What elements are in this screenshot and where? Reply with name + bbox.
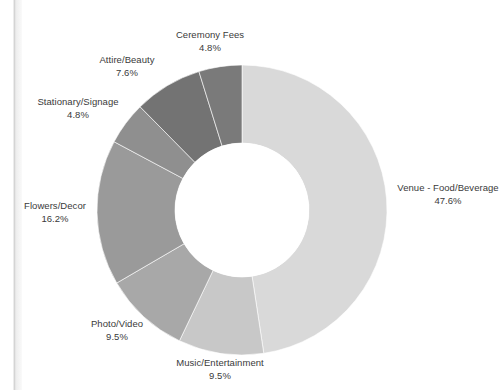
chart-page: Venue - Food/Beverage47.6%Music/Entertai… (0, 0, 504, 390)
slice-label-name: Flowers/Decor (24, 200, 86, 213)
slice-label-percent: 7.6% (99, 67, 154, 80)
slice-label: Photo/Video9.5% (91, 318, 143, 343)
slice-label-name: Venue - Food/Beverage (397, 182, 498, 195)
slice-label: Flowers/Decor16.2% (24, 200, 86, 225)
donut-hole (175, 143, 309, 277)
slice-label-name: Stationary/Signage (37, 96, 118, 109)
slice-label-percent: 16.2% (24, 213, 86, 226)
slice-label-name: Ceremony Fees (176, 29, 244, 42)
slice-label-percent: 9.5% (176, 370, 264, 383)
slice-label-percent: 47.6% (397, 195, 498, 208)
slice-label-name: Attire/Beauty (99, 54, 154, 67)
slice-label-percent: 9.5% (91, 331, 143, 344)
donut-chart: Venue - Food/Beverage47.6%Music/Entertai… (0, 0, 504, 390)
slice-label: Venue - Food/Beverage47.6% (397, 182, 498, 207)
slice-label-percent: 4.8% (37, 109, 118, 122)
slice-label-percent: 4.8% (176, 42, 244, 55)
slice-label-name: Music/Entertainment (176, 357, 264, 370)
slice-label: Ceremony Fees4.8% (176, 29, 244, 54)
slice-label: Music/Entertainment9.5% (176, 357, 264, 382)
slice-label: Attire/Beauty7.6% (99, 54, 154, 79)
slice-label-name: Photo/Video (91, 318, 143, 331)
slice-label: Stationary/Signage4.8% (37, 96, 118, 121)
